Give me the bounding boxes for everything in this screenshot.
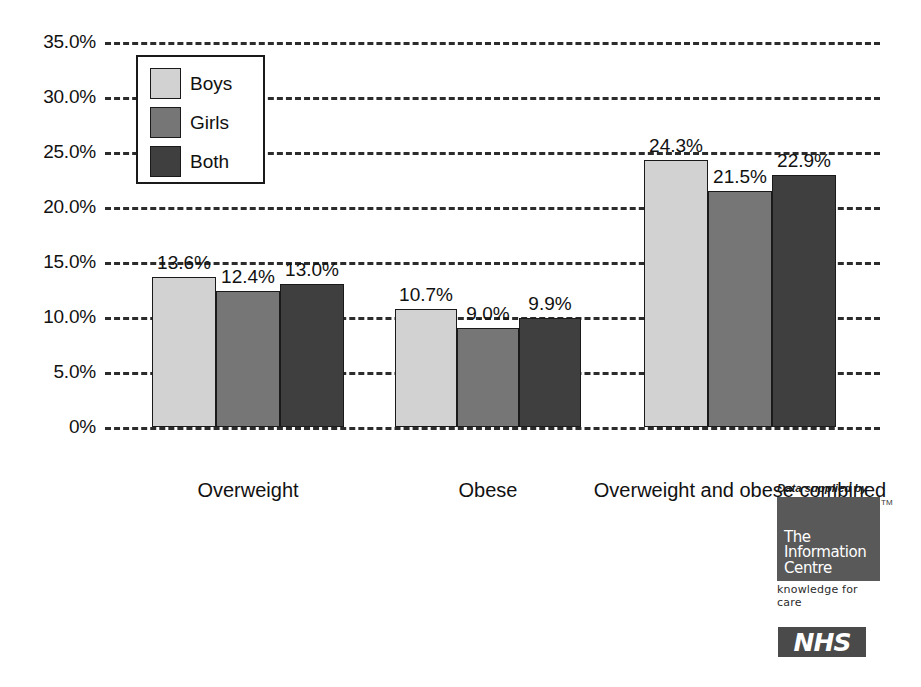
legend-label: Boys [190, 74, 232, 93]
y-axis: 0%5.0%10.0%15.0%20.0%25.0%30.0%35.0% [0, 0, 96, 687]
gridline [105, 427, 880, 430]
chart-legend: BoysGirlsBoth [136, 55, 265, 184]
bar-girls-1 [457, 328, 519, 427]
bar-girls-2 [708, 191, 772, 428]
bar-value-label: 10.7% [399, 284, 453, 306]
data-supplied-by-label: Data supplied by [777, 482, 907, 494]
y-axis-tick-label: 25.0% [43, 141, 96, 163]
legend-label: Girls [190, 113, 229, 132]
legend-label: Both [190, 152, 229, 171]
bar-value-label: 21.5% [713, 166, 767, 188]
bar-value-label: 9.0% [466, 303, 509, 325]
bar-girls-0 [216, 291, 280, 427]
y-axis-tick-label: 20.0% [43, 196, 96, 218]
bar-boys-1 [395, 309, 457, 427]
legend-swatch-icon [150, 68, 181, 99]
legend-item-girls: Girls [150, 106, 229, 138]
bar-value-label: 13.6% [157, 252, 211, 274]
logo-tagline: knowledge for care [777, 583, 883, 609]
attribution-block: Data supplied by The Information Centre … [777, 482, 907, 609]
y-axis-tick-label: 35.0% [43, 31, 96, 53]
y-axis-tick-label: 15.0% [43, 251, 96, 273]
y-axis-tick-label: 0% [69, 416, 96, 438]
legend-item-both: Both [150, 145, 229, 177]
legend-item-boys: Boys [150, 67, 232, 99]
bar-value-label: 12.4% [221, 266, 275, 288]
bar-chart: 0%5.0%10.0%15.0%20.0%25.0%30.0%35.0% 13.… [0, 0, 921, 687]
bar-group: 10.7%9.0%9.9% [395, 42, 581, 427]
legend-swatch-icon [150, 107, 181, 138]
bar-value-label: 13.0% [285, 259, 339, 281]
bar-value-label: 9.9% [528, 293, 571, 315]
bar-both-2 [772, 175, 836, 427]
nhs-logo-text: NHS [794, 628, 851, 657]
x-axis-category-label: Obese [459, 479, 518, 502]
bar-both-0 [280, 284, 344, 427]
bar-value-label: 22.9% [777, 150, 831, 172]
trademark-icon: TM [881, 498, 893, 507]
bar-group: 24.3%21.5%22.9% [644, 42, 836, 427]
y-axis-tick-label: 5.0% [53, 361, 96, 383]
information-centre-logo-text: The Information Centre [784, 530, 866, 577]
legend-swatch-icon [150, 146, 181, 177]
y-axis-tick-label: 10.0% [43, 306, 96, 328]
bar-value-label: 24.3% [649, 135, 703, 157]
bar-both-1 [519, 318, 581, 427]
nhs-logo: NHS [778, 627, 866, 657]
information-centre-logo: The Information Centre TM knowledge for … [777, 497, 883, 609]
bar-boys-0 [152, 277, 216, 427]
x-axis-category-label: Overweight [197, 479, 298, 502]
logo-line-3: Centre [784, 561, 866, 577]
bar-boys-2 [644, 160, 708, 427]
information-centre-logo-box: The Information Centre [777, 497, 880, 581]
y-axis-tick-label: 30.0% [43, 86, 96, 108]
